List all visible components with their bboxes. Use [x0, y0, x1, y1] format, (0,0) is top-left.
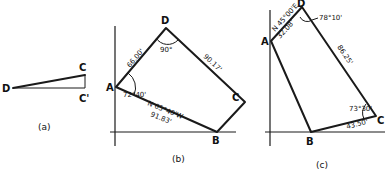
point-label-B-c: B	[306, 136, 314, 147]
point-label-C-c: C	[377, 115, 384, 126]
label-angle-D-c: 78°10'	[319, 14, 342, 22]
panel-b: D A C B 66.00' 90° 90.17' 72°40' N 65°40…	[106, 15, 245, 164]
point-label-B-b: B	[212, 135, 220, 146]
point-label-A-b: A	[106, 82, 114, 93]
point-label-C: C	[79, 62, 86, 73]
point-label-D: D	[2, 83, 10, 94]
leader-angle-D-c	[312, 18, 318, 20]
label-AD-length-b: 66.00'	[125, 47, 145, 69]
caption-b: (b)	[172, 154, 185, 164]
caption-c: (c)	[316, 160, 328, 170]
panel-c: D A C B N 45°00'E 32.08' 78°10' 86.25' 7…	[261, 0, 385, 170]
point-label-A-c: A	[261, 36, 269, 47]
label-DC-length-c: 86.25'	[335, 44, 354, 67]
label-BC-length-c: 43.50'	[346, 118, 369, 131]
label-angle-C-c: 73°30'	[349, 105, 372, 113]
line-DC	[13, 75, 85, 88]
point-label-C-b: C	[232, 92, 239, 103]
label-angle-D-b: 90°	[160, 46, 172, 54]
label-angle-A-b: 72°40'	[123, 91, 146, 99]
survey-diagram: D C C' (a) D A C B 66.00' 90° 90.17' 72°…	[0, 0, 385, 181]
point-label-D-b: D	[161, 15, 169, 26]
panel-a: D C C' (a)	[2, 62, 89, 132]
caption-a: (a)	[38, 122, 51, 132]
point-label-C-prime: C'	[79, 93, 89, 104]
angle-arc-D-b	[156, 38, 178, 44]
